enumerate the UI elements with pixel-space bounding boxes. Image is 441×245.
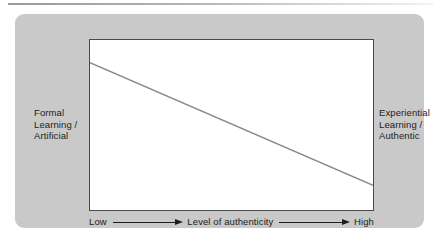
right-axis-label: Experiential Learning / Authentic: [379, 107, 441, 142]
top-divider-rule: [8, 3, 433, 5]
authenticity-trend-line: [90, 63, 373, 186]
plot-area: [89, 39, 374, 211]
axis-center-label: Level of authenticity: [187, 216, 273, 228]
arrow-shaft: [279, 222, 343, 223]
figure-root: Formal Learning / Artificial Experientia…: [0, 0, 441, 245]
axis-end-label: High: [354, 216, 374, 228]
arrow-right-icon: [277, 218, 350, 227]
horizontal-axis: Low Level of authenticity High: [89, 215, 374, 229]
left-axis-label: Formal Learning / Artificial: [34, 107, 88, 142]
arrow-shaft: [113, 222, 177, 223]
arrow-right-icon: [111, 218, 184, 227]
axis-start-label: Low: [89, 216, 107, 228]
diagram-panel: Formal Learning / Artificial Experientia…: [15, 14, 424, 228]
trend-line-chart: [90, 40, 373, 210]
arrow-head: [342, 219, 350, 225]
arrow-head: [175, 219, 183, 225]
